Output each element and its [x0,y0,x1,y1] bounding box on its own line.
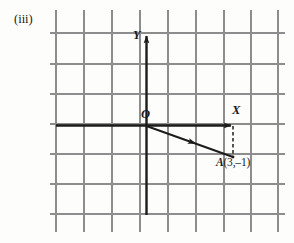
y-axis-label: Y [133,28,141,43]
origin-label: O [141,107,150,122]
coordinate-figure: (iii) Y X O A(3,–1) [0,0,294,243]
part-label: (iii) [14,12,33,27]
point-a-coords: (3,–1) [223,156,250,168]
point-a-label: A(3,–1) [216,156,250,168]
grid-lines [50,10,285,232]
x-axis-label: X [232,103,240,118]
vector-oa [147,126,234,157]
